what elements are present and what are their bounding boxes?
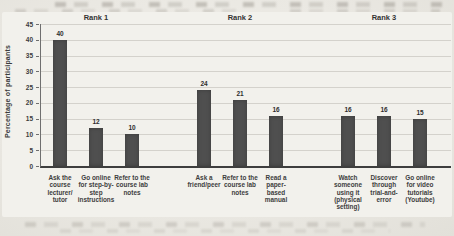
bar-value-label: 24 [192,80,216,87]
bar [125,134,139,166]
y-axis-tick-label: 25 [0,84,33,91]
y-axis-tick-label: 45 [0,21,33,28]
y-axis-tick-label: 15 [0,115,33,122]
bar-value-label: 16 [264,106,288,113]
y-axis-tickmark [36,87,39,88]
y-axis-tickmark [36,134,39,135]
bar-value-label: 10 [120,124,144,131]
group-title: Rank 2 [205,13,275,22]
bar-value-label: 21 [228,90,252,97]
y-axis-tickmark [36,150,39,151]
bar [233,100,247,166]
bar [197,90,211,166]
y-axis-tickmark [36,71,39,72]
bar-chart: Percentage of participants 0510152025303… [0,0,454,236]
bar-value-label: 12 [84,118,108,125]
bar [269,116,283,166]
bar-value-label: 15 [408,109,432,116]
gridline [41,40,451,41]
bar [341,116,355,166]
gridline [41,71,451,72]
gridline [41,56,451,57]
y-axis-tickmark [36,24,39,25]
group-title: Rank 1 [61,13,131,22]
y-axis-tickmark [36,103,39,104]
bar [377,116,391,166]
y-axis-tickmark [36,166,39,167]
y-axis-tick-label: 30 [0,68,33,75]
x-axis-category-label: Refer to the course lab notes [108,174,156,196]
bar [413,119,427,166]
bar [53,40,67,166]
scanned-page: Percentage of participants 0510152025303… [0,0,454,236]
y-axis-tickmark [36,40,39,41]
bar-value-label: 40 [48,30,72,37]
bar-value-label: 16 [372,106,396,113]
group-title: Rank 3 [349,13,419,22]
y-axis-tick-label: 5 [0,147,33,154]
y-axis-tickmark [36,56,39,57]
bar-value-label: 16 [336,106,360,113]
x-axis-category-label: Read a paper- based manual [252,174,300,203]
gridline [41,87,451,88]
x-axis-category-label: Go online for video tutorials (Youtube) [396,174,444,203]
y-axis-tick-label: 0 [0,163,33,170]
y-axis-tickmark [36,119,39,120]
y-axis-tick-label: 20 [0,99,33,106]
y-axis-tick-label: 35 [0,52,33,59]
y-axis-tick-label: 40 [0,36,33,43]
bar [89,128,103,166]
gridline [41,24,451,25]
y-axis-tick-label: 10 [0,131,33,138]
